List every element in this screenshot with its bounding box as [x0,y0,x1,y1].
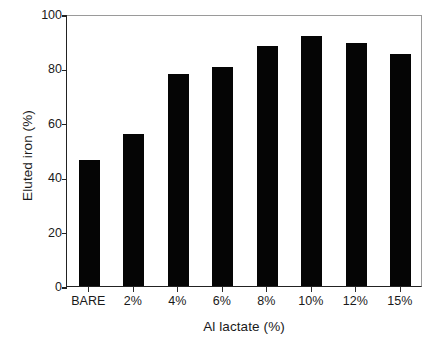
bar [301,36,322,286]
bar [212,67,233,286]
y-tick-label: 40 [20,172,62,185]
bars-layer [67,16,421,286]
x-tick-mark [355,287,356,292]
x-tick-mark [266,287,267,292]
bar [257,46,278,286]
plot-area [66,15,422,287]
bar-chart-figure: Eluted iron (%) 020406080100 BARE2%4%6%8… [0,0,437,348]
y-axis-tick-labels: 020406080100 [20,0,62,348]
x-tick-mark [133,287,134,292]
x-tick-mark [177,287,178,292]
bar [390,54,411,286]
y-tick-label: 60 [20,118,62,131]
x-tick-mark [222,287,223,292]
x-axis-title: Al lactate (%) [66,319,422,334]
x-tick-label: 15% [370,293,430,309]
x-tick-mark [311,287,312,292]
y-tick-label: 0 [20,281,62,294]
bar [168,74,189,286]
y-tick-label: 80 [20,63,62,76]
bar [79,160,100,286]
x-axis-tick-labels: BARE2%4%6%8%10%12%15% [66,293,422,313]
bar [346,43,367,286]
x-tick-mark [400,287,401,292]
x-tick-mark [88,287,89,292]
y-tick-label: 20 [20,226,62,239]
y-tick-label: 100 [20,9,62,22]
bar [123,134,144,286]
